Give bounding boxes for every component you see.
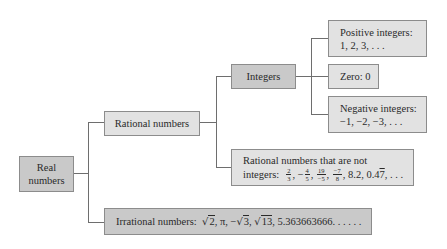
connector-rational-branch: [216, 76, 217, 168]
connector-to-positive: [311, 38, 328, 39]
real-numbers-label-1: Real: [28, 161, 64, 174]
non-integer-rationals-node: Rational numbers that are not integers: …: [231, 149, 414, 186]
integers-label: Integers: [247, 70, 281, 83]
irrational-numbers-content: Irrational numbers: √2, π, −√3, √13, 5.3…: [116, 215, 361, 228]
irrational-numbers-label: Irrational numbers:: [116, 216, 197, 227]
connector-integers-branch: [311, 38, 312, 115]
zero-node: Zero: 0: [328, 64, 379, 89]
fraction-19-neg5: 19−5: [317, 167, 326, 182]
connector-rational-out: [200, 122, 216, 123]
fraction-2-3: 23: [286, 167, 291, 182]
connector-integers-out: [296, 76, 328, 77]
non-integer-rationals-label: Rational numbers that are not: [243, 154, 403, 167]
non-integer-rationals-examples: integers: 23, −45, 19−5, −78, 8.2, 0.47,…: [243, 167, 403, 182]
integers-node: Integers: [231, 64, 296, 89]
connector-to-non-integers: [216, 167, 231, 168]
connector-real-branch: [88, 122, 89, 223]
negative-integers-label: Negative integers:: [340, 102, 417, 115]
irrational-numbers-node: Irrational numbers: √2, π, −√3, √13, 5.3…: [104, 208, 372, 235]
negative-integers-node: Negative integers: −1, −2, −3, . . .: [328, 96, 427, 133]
zero-label: Zero: 0: [340, 70, 371, 83]
connector-real-out: [74, 173, 89, 174]
rational-numbers-node: Rational numbers: [104, 111, 200, 136]
rational-numbers-label: Rational numbers: [115, 117, 189, 130]
real-numbers-node: Real numbers: [19, 156, 74, 192]
positive-integers-examples: 1, 2, 3, . . .: [340, 39, 413, 52]
negative-integers-examples: −1, −2, −3, . . .: [340, 115, 417, 128]
fraction-neg-4-5: 45: [305, 167, 310, 182]
connector-to-negative: [311, 114, 328, 115]
connector-to-rational: [88, 122, 104, 123]
positive-integers-node: Positive integers: 1, 2, 3, . . .: [328, 20, 427, 57]
connector-to-irrational: [88, 222, 104, 223]
fraction-neg7-8: −78: [333, 167, 342, 182]
real-numbers-label-2: numbers: [28, 174, 64, 187]
positive-integers-label: Positive integers:: [340, 26, 413, 39]
connector-to-integers: [216, 76, 231, 77]
